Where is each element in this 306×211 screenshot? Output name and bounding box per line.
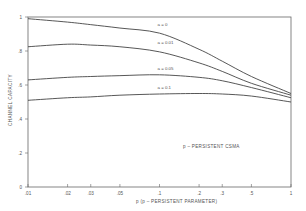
channel-capacity-chart: 0.2.4.6.81 .01.02.03.05.1.2.3.51 a = 0a … [0,0,306,211]
y-axis-label: CHANNEL CAPACITY [8,74,13,126]
y-tick-label: .6 [18,83,22,88]
x-axis-label: p (p – PERSISTENT PARAMETER) [136,199,217,204]
series-label: a = 0.05 [158,66,175,71]
annotation-p-persistent-csma: p – PERSISTENT CSMA [183,144,240,149]
x-tick-label: .05 [117,191,124,196]
series-label: a = 0.01 [158,40,175,45]
x-axis-ticks: .01.02.03.05.1.2.3.51 [25,184,293,196]
y-axis-ticks: 0.2.4.6.81 [18,15,28,190]
x-tick-label: .3 [220,191,224,196]
x-tick-label: .01 [25,191,32,196]
x-tick-label: 1 [290,191,293,196]
series-label: a = 0.1 [158,85,172,90]
y-tick-label: 0 [19,185,22,190]
x-tick-label: .03 [88,191,95,196]
y-tick-label: .8 [18,49,22,54]
series-line [28,94,291,103]
y-tick-label: .2 [18,151,22,156]
x-tick-label: .5 [249,191,253,196]
series-line [28,19,291,94]
series-labels: a = 0a = 0.01a = 0.05a = 0.1 [158,22,175,90]
x-tick-label: .2 [197,191,201,196]
x-tick-label: .02 [64,191,71,196]
x-tick-label: .1 [158,191,162,196]
series-label: a = 0 [158,22,168,27]
y-tick-label: 1 [19,15,22,20]
y-tick-label: .4 [18,117,22,122]
